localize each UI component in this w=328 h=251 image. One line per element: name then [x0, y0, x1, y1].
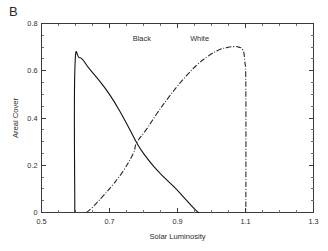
x-tick-label: 0.9 [172, 217, 182, 226]
series-curve-white [86, 47, 246, 213]
x-axis-title: Solar Luminosity [149, 232, 205, 241]
series-label-black: Black [133, 34, 151, 43]
y-tick-label: 0.4 [27, 114, 37, 123]
series-curve-black [74, 51, 198, 212]
y-tick-label: 0 [33, 208, 37, 217]
figure-panel-b: B 0.50.70.91.11.300.20.40.60.8Solar Lumi… [0, 0, 328, 251]
x-tick-label: 0.5 [36, 217, 46, 226]
y-axis-title: Areal Cover [11, 97, 20, 138]
chart-plot-area: 0.50.70.91.11.300.20.40.60.8Solar Lumino… [0, 0, 328, 251]
x-tick-label: 0.7 [104, 217, 114, 226]
y-tick-label: 0.8 [27, 19, 37, 28]
y-tick-label: 0.6 [27, 66, 37, 75]
x-tick-label: 1.3 [308, 217, 318, 226]
x-tick-label: 1.1 [240, 217, 250, 226]
y-tick-label: 0.2 [27, 161, 37, 170]
plot-frame [42, 24, 314, 213]
series-label-white: White [190, 34, 209, 43]
